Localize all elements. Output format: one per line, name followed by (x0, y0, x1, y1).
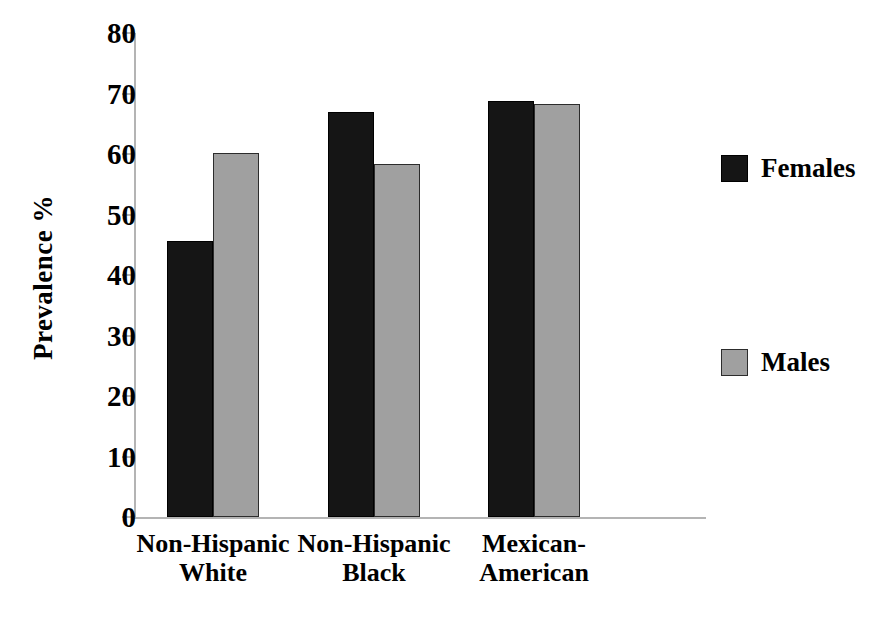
y-axis-tick-label: 40 (74, 261, 136, 290)
bar-males-non-hispanic-black (374, 164, 420, 517)
legend-item-males: Males (721, 347, 830, 378)
y-axis-tick-label: 30 (74, 321, 136, 350)
y-axis-tick-label: 50 (74, 200, 136, 229)
plot-area (136, 33, 706, 517)
y-axis-tick-label: 20 (74, 382, 136, 411)
bar-females-mexican-american (488, 101, 534, 517)
legend-label-females: Females (761, 153, 855, 184)
y-axis-tick-label: 0 (74, 503, 136, 532)
bar-males-non-hispanic-white (213, 153, 259, 517)
y-axis-title: Prevalence % (28, 153, 59, 403)
legend-label-males: Males (761, 347, 830, 378)
x-axis-label-mexican-american: Mexican-American (424, 529, 644, 587)
x-axis-line (134, 517, 706, 519)
y-axis-tick-label: 10 (74, 442, 136, 471)
y-axis-tick-label: 70 (74, 79, 136, 108)
x-axis-label-line: American (424, 558, 644, 587)
bar-males-mexican-american (534, 104, 580, 517)
gray-square-swatch (721, 349, 748, 376)
y-axis-tick-label: 60 (74, 140, 136, 169)
x-axis-label-line: Mexican- (482, 529, 586, 558)
black-square-swatch (721, 155, 748, 182)
bar-females-non-hispanic-black (328, 112, 374, 517)
bar-chart: Prevalence % 80706050403020100 Non-Hispa… (0, 0, 875, 641)
legend-item-females: Females (721, 153, 855, 184)
y-axis-tick-label: 80 (74, 19, 136, 48)
bar-females-non-hispanic-white (167, 241, 213, 517)
